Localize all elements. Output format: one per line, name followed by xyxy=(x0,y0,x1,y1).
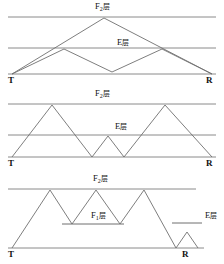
propagation-diagram-svg xyxy=(0,0,224,264)
panel-1-single-hop xyxy=(8,17,216,74)
panel-1-e-hop-path xyxy=(12,49,212,74)
transmitter-panel-1: T xyxy=(8,76,14,85)
ionospheric-propagation-figure: F2层 E层 F2层 E层 F2层 F1层 E层 T R T R T R xyxy=(0,0,224,264)
receiver-panel-3: R xyxy=(182,250,189,259)
panel-3-f1-label: F1层 xyxy=(90,211,107,220)
receiver-panel-2: R xyxy=(206,159,213,168)
panel-3-f2-label: F2层 xyxy=(92,174,109,183)
panel-1-f2-label: F2层 xyxy=(94,2,111,11)
panel-2-f2-double-hop-path xyxy=(12,105,212,157)
panel-2-f2-label: F2层 xyxy=(94,89,111,98)
receiver-panel-1: R xyxy=(206,76,213,85)
panel-3-e-label: E层 xyxy=(204,211,218,220)
panel-1-e-label: E层 xyxy=(116,38,130,47)
transmitter-panel-3: T xyxy=(8,250,14,259)
panel-2-e-label: E层 xyxy=(114,122,128,131)
panel-1-f2-hop-path xyxy=(12,18,212,74)
transmitter-panel-2: T xyxy=(8,159,14,168)
panel-2-double-hop xyxy=(8,104,216,157)
